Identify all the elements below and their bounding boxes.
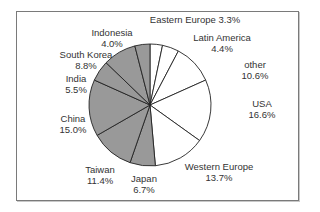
slice-name: South Korea <box>60 49 113 60</box>
slice-label-other: other10.6% <box>242 59 269 81</box>
slice-name: Indonesia <box>91 27 132 38</box>
slice-label-usa: USA16.6% <box>249 98 276 120</box>
slice-value: 5.5% <box>65 84 87 95</box>
slice-label-western-europe: Western Europe13.7% <box>185 161 253 183</box>
slice-name: Western Europe <box>185 161 253 172</box>
slice-label-japan: Japan6.7% <box>131 173 157 195</box>
slice-value: 10.6% <box>242 70 269 81</box>
slice-name: Japan <box>131 173 157 184</box>
slice-label-china: China15.0% <box>60 113 87 135</box>
slice-label-south-korea: South Korea8.8% <box>60 49 113 71</box>
slice-value: 11.4% <box>87 175 113 186</box>
slice-value: 15.0% <box>60 124 87 135</box>
slice-value: 4.0% <box>101 38 123 49</box>
slice-name: USA <box>252 98 272 109</box>
slice-label-taiwan: Taiwan11.4% <box>85 164 115 186</box>
slice-value: 13.7% <box>206 172 233 183</box>
slice-label-indonesia: Indonesia4.0% <box>91 27 132 49</box>
slice-name: Eastern Europe <box>150 14 216 25</box>
slice-value: 4.4% <box>211 43 233 54</box>
slice-value: 8.8% <box>75 60 97 71</box>
slice-name: Taiwan <box>85 164 115 175</box>
slice-label-latin-america: Latin America4.4% <box>193 32 251 54</box>
slice-name: China <box>61 113 86 124</box>
slice-value: 16.6% <box>249 109 276 120</box>
slice-name: India <box>66 73 87 84</box>
slice-value: 6.7% <box>133 184 155 195</box>
slice-name: other <box>244 59 266 70</box>
slice-label-eastern-europe: Eastern Europe 3.3% <box>150 14 240 25</box>
slice-label-india: India5.5% <box>65 73 87 95</box>
slice-name: Latin America <box>193 32 251 43</box>
slice-value: 3.3% <box>219 14 241 25</box>
